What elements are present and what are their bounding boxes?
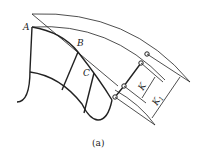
dimension-lines — [115, 54, 190, 125]
diagram-canvas: A B C K K1 (a) — [0, 0, 205, 158]
label-c: C — [83, 68, 90, 78]
blade-left-edge — [17, 27, 32, 102]
ext-line-1 — [141, 63, 163, 82]
label-k1: K1 — [150, 93, 165, 109]
ext-line-3 — [115, 97, 155, 125]
label-a: A — [22, 22, 30, 32]
label-b: B — [76, 38, 84, 48]
inner-arc — [115, 90, 155, 125]
blade-top-edge — [32, 27, 112, 100]
outer-arc — [32, 14, 190, 82]
construction-lines — [32, 14, 190, 125]
ext-line-outer — [147, 54, 190, 82]
blade-bottom-edge — [30, 72, 112, 120]
figure-caption: (a) — [92, 138, 104, 148]
node-connector — [115, 63, 141, 97]
divider-c — [84, 73, 94, 113]
divider-b — [62, 52, 78, 90]
